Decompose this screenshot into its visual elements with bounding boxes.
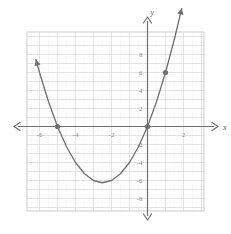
y-tick-label: 8 (139, 51, 143, 59)
x-axis-label: x (222, 123, 227, 132)
y-tick-label: 4 (139, 87, 143, 95)
y-axis-label: y (150, 8, 155, 17)
y-tick-label: -4 (137, 159, 143, 167)
data-point[interactable] (55, 124, 60, 129)
curve-arrow-right (177, 9, 183, 16)
coordinate-graph: xy-6-4-228642-2-4-6-8 (0, 0, 231, 234)
graph-canvas: xy-6-4-228642-2-4-6-8 (0, 0, 231, 234)
data-point[interactable] (163, 70, 168, 75)
y-tick-label: 6 (139, 69, 143, 77)
y-tick-label: -8 (137, 195, 143, 203)
minor-gridlines (27, 32, 204, 212)
x-tick-label: -2 (109, 131, 115, 139)
data-point[interactable] (145, 124, 150, 129)
x-tick-label: -6 (37, 131, 43, 139)
x-tick-label: 2 (182, 131, 186, 139)
y-tick-label: 2 (139, 105, 143, 113)
y-tick-label: -6 (137, 177, 143, 185)
x-tick-label: -4 (73, 131, 79, 139)
